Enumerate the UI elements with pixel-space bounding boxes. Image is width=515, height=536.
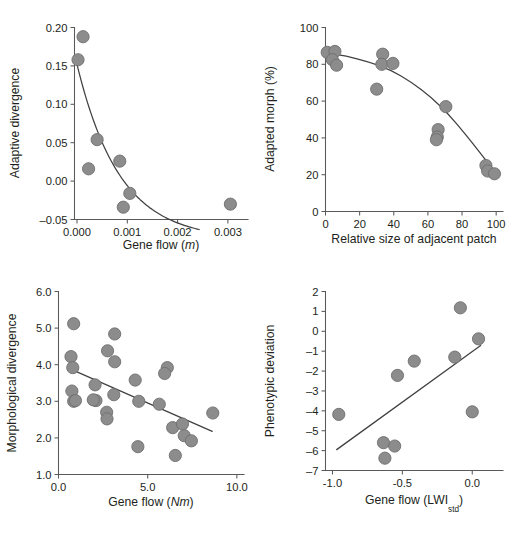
panel-a-x-tick-label: 0.000 xyxy=(63,226,91,238)
data-point xyxy=(488,168,500,180)
data-point xyxy=(440,101,452,113)
panel-a-data-points xyxy=(72,31,237,214)
panel-c-y-tick-label: 1.0 xyxy=(36,469,52,481)
data-point xyxy=(207,407,219,419)
panel-b-x-tick-label: 100 xyxy=(487,218,506,230)
data-point xyxy=(114,155,126,167)
panel-d-plot: -1.0-0.50.0 –7–6–5–4–3–2–1012 Gene flow … xyxy=(257,268,515,536)
data-point xyxy=(129,374,141,386)
panel-b-x-axis-label: Relative size of adjacent patch xyxy=(331,232,496,246)
data-point xyxy=(77,31,89,43)
data-point xyxy=(389,440,401,452)
data-point xyxy=(91,134,103,146)
data-point xyxy=(82,163,94,175)
data-point xyxy=(466,406,478,418)
data-point xyxy=(68,318,80,330)
panel-b-data-points xyxy=(321,45,500,180)
panel-a-adaptive-divergence-vs-gene-flow: 0.0000.0010.0020.003 –0.050.000.050.100.… xyxy=(0,0,257,268)
panel-d-x-tick-labels: -1.0-0.50.0 xyxy=(323,477,480,489)
panel-a-y-tick-label: –0.05 xyxy=(40,214,68,226)
data-point xyxy=(430,134,442,146)
panel-c-y-tick-label: 4.0 xyxy=(36,359,52,371)
panel-c-y-tick-label: 5.0 xyxy=(36,322,52,334)
panel-c-x-tick-label: 5.0 xyxy=(140,481,156,493)
data-point xyxy=(159,367,171,379)
panel-b-x-tick-label: 40 xyxy=(388,218,400,230)
data-point xyxy=(371,83,383,95)
panel-d-y-tick-label: –5 xyxy=(306,425,318,437)
panel-c-x-tick-labels: 0.05.010.0 xyxy=(51,481,248,493)
panel-b-y-tick-label: 100 xyxy=(300,22,319,34)
panel-c-data-points xyxy=(65,318,219,462)
panel-c-morphological-divergence-vs-gene-flow: 0.05.010.0 1.02.03.04.05.06.0 Gene flow … xyxy=(0,268,257,536)
panel-a-y-tick-label: 0.00 xyxy=(46,175,68,187)
data-point xyxy=(109,328,121,340)
panel-d-y-tick-label: –3 xyxy=(306,385,318,397)
data-point xyxy=(333,408,345,420)
panel-c-plot: 0.05.010.0 1.02.03.04.05.06.0 Gene flow … xyxy=(0,268,257,536)
data-point xyxy=(87,394,99,406)
panel-b-x-tick-label: 0 xyxy=(322,218,328,230)
panel-c-y-ticks xyxy=(55,292,59,475)
panel-a-y-tick-labels: –0.050.000.050.100.150.20 xyxy=(40,22,68,226)
panel-c-x-ticks xyxy=(59,475,237,479)
data-point xyxy=(65,351,77,363)
panel-a-x-tick-label: 0.003 xyxy=(214,226,242,238)
data-point xyxy=(117,201,129,213)
data-point xyxy=(379,452,391,464)
panel-b-y-tick-label: 20 xyxy=(306,169,318,181)
panel-d-y-ticks xyxy=(322,292,326,471)
data-point xyxy=(109,356,121,368)
data-point xyxy=(454,302,466,314)
data-point xyxy=(132,441,144,453)
panel-c-y-tick-label: 2.0 xyxy=(36,432,52,444)
panel-b-adapted-morph-vs-patch-size: 020406080100 020406080100 Relative size … xyxy=(257,0,514,268)
data-point xyxy=(101,345,113,357)
data-point xyxy=(449,351,461,363)
panel-a-x-tick-labels: 0.0000.0010.0020.003 xyxy=(63,226,242,238)
panel-d-x-tick-label: 0.0 xyxy=(464,477,480,489)
panel-b-axes xyxy=(326,28,504,212)
panel-a-x-tick-label: 0.001 xyxy=(113,226,141,238)
data-point xyxy=(472,333,484,345)
data-point xyxy=(72,54,84,66)
data-point xyxy=(176,418,188,430)
panel-d-y-tick-label: –7 xyxy=(306,465,318,477)
panel-b-y-tick-label: 80 xyxy=(306,58,318,70)
panel-a-y-tick-label: 0.20 xyxy=(46,22,68,34)
panel-a-y-tick-label: 0.10 xyxy=(46,98,68,110)
panel-d-x-tick-label: -1.0 xyxy=(323,477,342,489)
panel-d-y-axis-label: Phenotypic deviation xyxy=(263,325,277,437)
panel-a-y-axis-label: Adaptive divergence xyxy=(8,68,22,179)
four-panel-scatter-figure: 0.0000.0010.0020.003 –0.050.000.050.100.… xyxy=(0,0,515,536)
panel-a-plot: 0.0000.0010.0020.003 –0.050.000.050.100.… xyxy=(0,0,257,268)
panel-c-y-tick-labels: 1.02.03.04.05.06.0 xyxy=(36,286,52,481)
data-point xyxy=(376,58,388,70)
panel-d-y-tick-label: –4 xyxy=(306,405,318,417)
panel-a-x-axis-label: Gene flow (m) xyxy=(123,238,200,252)
data-point xyxy=(133,395,145,407)
data-point xyxy=(169,449,181,461)
data-point xyxy=(408,355,420,367)
panel-d-x-tick-label: -0.5 xyxy=(393,477,412,489)
data-point xyxy=(67,362,79,374)
panel-b-x-ticks xyxy=(326,212,497,216)
panel-d-y-tick-label: 1 xyxy=(312,305,318,317)
panel-a-y-tick-label: 0.15 xyxy=(46,60,68,72)
panel-b-y-tick-label: 0 xyxy=(312,206,318,218)
panel-b-x-tick-label: 20 xyxy=(353,218,365,230)
panel-c-y-tick-label: 3.0 xyxy=(36,395,52,407)
data-point xyxy=(224,198,236,210)
panel-c-y-tick-label: 6.0 xyxy=(36,286,52,298)
data-point xyxy=(89,379,101,391)
panel-d-x-ticks xyxy=(332,471,472,475)
panel-b-fit-curve xyxy=(326,53,497,173)
panel-c-x-tick-label: 0.0 xyxy=(51,481,67,493)
panel-b-x-tick-label: 80 xyxy=(456,218,468,230)
data-point xyxy=(153,398,165,410)
panel-d-y-tick-label: –2 xyxy=(306,365,318,377)
panel-b-x-tick-labels: 020406080100 xyxy=(322,218,505,230)
data-point xyxy=(101,413,113,425)
data-point xyxy=(377,437,389,449)
panel-c-x-axis-label: Gene flow (Nm) xyxy=(108,495,193,509)
